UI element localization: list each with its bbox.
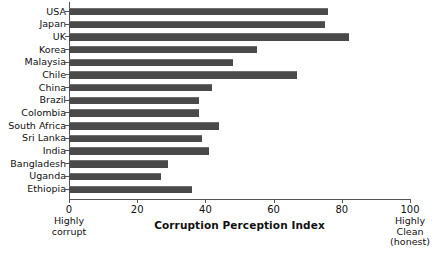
y-tick-mark	[65, 189, 69, 190]
bar-sri-lanka	[69, 135, 202, 142]
category-label-ethiopia: Ethiopia	[2, 184, 66, 194]
bar-brazil	[69, 97, 199, 104]
y-tick-mark	[65, 150, 69, 151]
y-tick-mark	[65, 125, 69, 126]
category-label-colombia: Colombia	[2, 108, 66, 118]
left-end-note-line1: Highly	[34, 216, 104, 227]
bar-row	[69, 69, 410, 82]
category-label-uganda: Uganda	[2, 171, 66, 181]
bar-india	[69, 147, 209, 154]
category-label-india: India	[2, 146, 66, 156]
bar-row	[69, 107, 410, 120]
y-tick-mark	[65, 24, 69, 25]
x-tick-label-60: 60	[254, 204, 294, 215]
y-tick-mark	[65, 100, 69, 101]
bar-row	[69, 6, 410, 19]
bar-row	[69, 44, 410, 57]
left-end-note: Highly corrupt	[34, 216, 104, 237]
x-tick-mark	[205, 199, 206, 203]
y-tick-mark	[65, 74, 69, 75]
bar-row	[69, 145, 410, 158]
category-label-usa: USA	[2, 7, 66, 17]
right-end-note-line1: Highly	[375, 216, 435, 227]
right-end-note-line3: (honest)	[375, 237, 435, 248]
y-tick-mark	[65, 62, 69, 63]
bar-ethiopia	[69, 186, 192, 193]
bar-chile	[69, 71, 297, 78]
x-axis-title: Corruption Perception Index	[69, 219, 410, 231]
bar-uganda	[69, 173, 161, 180]
corruption-perception-index-chart: USAJapanUKKoreaMalaysiaChileChinaBrazilC…	[0, 0, 435, 257]
x-tick-mark	[410, 199, 411, 203]
y-tick-mark	[65, 138, 69, 139]
x-tick-mark	[137, 199, 138, 203]
category-label-uk: UK	[2, 32, 66, 42]
category-axis-labels: USAJapanUKKoreaMalaysiaChileChinaBrazilC…	[0, 0, 66, 200]
x-tick-mark	[69, 199, 70, 203]
bar-row	[69, 184, 410, 197]
bar-row	[69, 82, 410, 95]
category-label-malaysia: Malaysia	[2, 57, 66, 67]
category-label-korea: Korea	[2, 45, 66, 55]
y-tick-mark	[65, 163, 69, 164]
bar-row	[69, 19, 410, 32]
bar-uk	[69, 33, 349, 40]
y-tick-mark	[65, 11, 69, 12]
x-tick-mark	[274, 199, 275, 203]
bar-row	[69, 158, 410, 171]
bar-row	[69, 171, 410, 184]
bar-malaysia	[69, 59, 233, 66]
category-label-china: China	[2, 83, 66, 93]
bar-row	[69, 95, 410, 108]
bar-south-africa	[69, 122, 219, 129]
category-label-japan: Japan	[2, 19, 66, 29]
bar-japan	[69, 21, 325, 28]
y-tick-mark	[65, 87, 69, 88]
bar-row	[69, 57, 410, 70]
plot-area	[69, 0, 410, 200]
y-tick-mark	[65, 36, 69, 37]
category-label-south-africa: South Africa	[2, 121, 66, 131]
bar-row	[69, 31, 410, 44]
y-tick-mark	[65, 112, 69, 113]
x-tick-label-80: 80	[322, 204, 362, 215]
bar-korea	[69, 46, 257, 53]
left-end-note-line2: corrupt	[34, 227, 104, 238]
category-label-bangladesh: Bangladesh	[2, 159, 66, 169]
bar-colombia	[69, 109, 199, 116]
bar-usa	[69, 8, 328, 15]
x-tick-label-100: 100	[390, 204, 430, 215]
bar-row	[69, 133, 410, 146]
bar-china	[69, 84, 212, 91]
category-label-sri-lanka: Sri Lanka	[2, 133, 66, 143]
category-label-chile: Chile	[2, 70, 66, 80]
bar-row	[69, 120, 410, 133]
category-label-brazil: Brazil	[2, 95, 66, 105]
x-tick-mark	[342, 199, 343, 203]
x-tick-label-20: 20	[117, 204, 157, 215]
x-tick-label-0: 0	[49, 204, 89, 215]
bar-series	[69, 0, 410, 200]
y-tick-mark	[65, 49, 69, 50]
x-tick-label-40: 40	[185, 204, 225, 215]
y-tick-mark	[65, 176, 69, 177]
bar-bangladesh	[69, 160, 168, 167]
right-end-note: Highly Clean (honest)	[375, 216, 435, 248]
